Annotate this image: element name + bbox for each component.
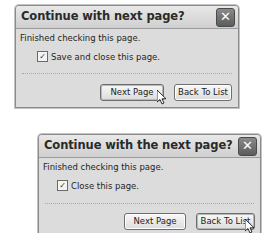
title-bar[interactable]: Continue with the next page? ✕ [39,135,260,158]
dialog-continue-the-next-page: Continue with the next page? ✕ Finished … [38,134,261,233]
save-and-close-checkbox[interactable]: ✓ [37,51,48,62]
close-button[interactable]: ✕ [238,137,257,156]
close-page-checkbox-row[interactable]: ✓ Close this page. [57,180,139,191]
dialog-message: Finished checking this page. [20,33,140,43]
checkbox-label: Save and close this page. [51,52,160,62]
dialog-continue-next-page: Continue with next page? ✕ Finished chec… [15,5,239,108]
close-button[interactable]: ✕ [216,8,235,27]
title-bar[interactable]: Continue with next page? ✕ [16,6,238,29]
next-page-button[interactable]: Next Page [100,84,164,101]
checkmark-icon: ✓ [39,52,46,61]
separator [45,203,254,204]
back-to-list-button[interactable]: Back To List [174,84,232,101]
checkbox-label: Close this page. [71,181,139,191]
close-icon: ✕ [220,9,231,24]
dialog-title: Continue with next page? [21,9,185,23]
close-page-checkbox[interactable]: ✓ [57,180,68,191]
save-and-close-checkbox-row[interactable]: ✓ Save and close this page. [37,51,160,62]
next-page-button[interactable]: Next Page [124,213,186,230]
dialog-title: Continue with the next page? [44,138,233,152]
close-icon: ✕ [242,138,253,153]
checkmark-icon: ✓ [59,181,66,190]
dialog-message: Finished checking this page. [43,162,163,172]
separator [22,73,232,74]
